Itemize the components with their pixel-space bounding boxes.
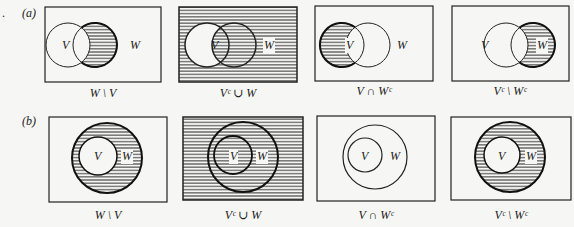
set-label-w: W	[121, 149, 133, 164]
caption-b1: W \ V	[48, 208, 168, 223]
set-label-w: W	[390, 149, 400, 164]
venn-diagrams	[0, 0, 574, 227]
set-label-v: V	[94, 149, 101, 164]
caption-b4: Vᶜ \ Wᶜ	[451, 208, 571, 223]
diagram-a2	[179, 7, 297, 82]
set-label-v: V	[481, 38, 488, 53]
set-label-w: W	[525, 149, 537, 164]
set-label-w: W	[256, 149, 268, 164]
caption-a3: V ∩ Wᶜ	[314, 84, 434, 99]
diagram-a4	[452, 6, 569, 81]
set-label-v: V	[62, 38, 69, 53]
diagram-b4	[451, 117, 571, 200]
diagram-b3	[317, 116, 435, 201]
caption-a4: Vᶜ \ Wᶜ	[450, 84, 570, 99]
set-label-w: W	[397, 38, 407, 53]
caption-a1: W \ V	[43, 86, 163, 101]
set-label-w: W	[536, 38, 548, 53]
set-label-v: V	[361, 149, 368, 164]
set-label-v: V	[345, 38, 354, 53]
set-label-w: W	[263, 38, 275, 53]
caption-b2: Vᶜ ∪ W	[183, 208, 303, 223]
set-label-w: W	[129, 38, 141, 53]
diagram-b2	[183, 117, 303, 200]
caption-a2: Vᶜ ∪ W	[178, 86, 298, 101]
set-label-v: V	[211, 38, 218, 53]
diagram-b1	[49, 117, 167, 202]
set-label-v: V	[498, 149, 505, 164]
caption-b3: V ∩ Wᶜ	[316, 208, 436, 223]
set-label-v: V	[229, 149, 238, 164]
diagram-a3	[315, 6, 433, 81]
